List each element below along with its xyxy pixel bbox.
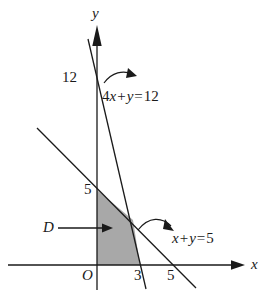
equation-label-4x-plus-y-equals-12: 4x+y=12 [102, 89, 159, 104]
origin-label: O [82, 268, 93, 283]
callout-arrowhead-4x-plus-y-equals-12 [126, 68, 137, 78]
eq2-equals: = [196, 230, 206, 246]
eq2-var-y: y [189, 230, 196, 246]
y-tick-label-12: 12 [62, 70, 77, 85]
y-axis-arrowhead [92, 25, 101, 46]
linear-programming-figure: y x O 12 5 3 5 D 4x+y=12 x+y=5 [0, 0, 273, 300]
eq2-plus: + [179, 230, 189, 246]
eq1-coef: 4 [102, 88, 110, 104]
x-axis-arrowhead [231, 260, 245, 270]
eq1-rhs: 12 [144, 88, 159, 104]
figure-canvas [0, 0, 273, 300]
y-tick-label-5: 5 [84, 182, 92, 197]
eq2-rhs: 5 [206, 230, 214, 246]
x-axis-label: x [251, 257, 258, 272]
eq2-var-x: x [172, 230, 179, 246]
x-tick-label-5: 5 [167, 268, 175, 283]
equation-label-x-plus-y-equals-5: x+y=5 [172, 231, 214, 246]
x-tick-label-3: 3 [134, 268, 142, 283]
y-axis-label: y [92, 6, 99, 21]
region-label-D: D [43, 220, 54, 235]
eq1-plus: + [116, 88, 126, 104]
eq1-equals: = [133, 88, 143, 104]
